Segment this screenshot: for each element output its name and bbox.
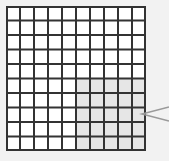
callout-line (142, 107, 169, 121)
pointer-callout (0, 0, 169, 161)
